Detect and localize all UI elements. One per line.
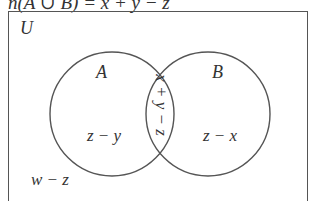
universe-label: U bbox=[20, 18, 33, 39]
intersection-region-label: x + y − z bbox=[151, 66, 171, 144]
outside-region-label: w − z bbox=[31, 170, 69, 190]
set-b-label: B bbox=[212, 62, 223, 83]
set-a-label: A bbox=[96, 62, 107, 83]
set-b-only-region-label: z − x bbox=[203, 126, 237, 146]
set-a-only-region-label: z − y bbox=[87, 126, 121, 146]
